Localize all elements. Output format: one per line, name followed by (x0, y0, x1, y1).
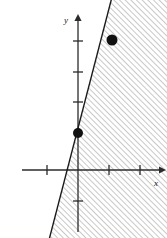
y-axis-label: y (63, 15, 68, 25)
coordinate-plane: y x (0, 0, 167, 238)
second-point (107, 35, 118, 46)
graph-figure: y x (0, 0, 167, 238)
x-axis-label: x (153, 178, 158, 188)
shaded-solution-region (50, 0, 167, 238)
y-intercept-point (73, 128, 83, 138)
